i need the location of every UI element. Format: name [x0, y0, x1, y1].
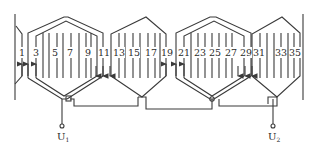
slot-label: 27: [225, 47, 237, 58]
terminal-u1-icon: [60, 124, 64, 128]
terminal-u2-label: U2: [268, 131, 280, 143]
slot-label: 5: [52, 47, 58, 58]
terminal-u2-icon: [271, 124, 275, 128]
slot-label: 29: [240, 47, 252, 58]
slot-label: 11: [98, 47, 110, 58]
slot-label: 19: [161, 47, 173, 58]
inter-group-connections: [66, 96, 277, 109]
slot-label: 25: [209, 47, 221, 58]
slot-label: 13: [113, 47, 125, 58]
slot-label: 1: [19, 47, 25, 58]
terminal-u1: U1: [57, 99, 69, 143]
terminal-u1-label: U1: [57, 131, 69, 143]
slot-label: 35: [289, 47, 301, 58]
slot-label: 9: [85, 47, 91, 58]
winding-diagram: U1 U2 1 3 5 7: [0, 0, 312, 149]
slot-label: 17: [145, 47, 157, 58]
slot-label: 3: [33, 47, 39, 58]
slot-label: 31: [253, 47, 265, 58]
slot-label: 23: [194, 47, 206, 58]
slot-label: 21: [178, 47, 190, 58]
slot-label: 33: [275, 47, 287, 58]
slot-label: 15: [128, 47, 140, 58]
slot-label: 7: [67, 47, 73, 58]
winding-diagram-svg: U1 U2 1 3 5 7: [0, 0, 312, 149]
